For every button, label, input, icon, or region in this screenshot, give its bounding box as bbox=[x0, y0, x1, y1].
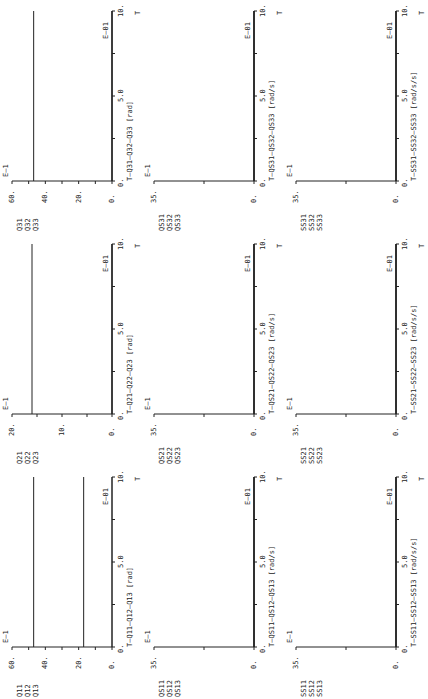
x-axis-label: T—Q11—Q12—Q13 [rad] bbox=[126, 567, 134, 647]
legend: Q21 Q22 Q23 bbox=[16, 451, 40, 464]
y-tick-label: 0. bbox=[108, 195, 116, 203]
x-tick-label: 10. bbox=[259, 237, 267, 250]
x-scale-label: E—01 bbox=[102, 22, 110, 39]
x-tick-label: 0. bbox=[401, 645, 409, 653]
x-tick-label: 10. bbox=[401, 470, 409, 483]
x-scale-label: E—01 bbox=[386, 488, 394, 505]
x-tick-label: 10. bbox=[401, 4, 409, 17]
y-tick-label: 20. bbox=[8, 423, 16, 436]
x-tick-label: 10. bbox=[401, 237, 409, 250]
x-scale-label: E—01 bbox=[102, 255, 110, 272]
y-tick-label: 35. bbox=[292, 423, 300, 436]
plot-panel-ss3: SS31 SS32 SS330.35.0.5.010.E—1E—01T—SS31… bbox=[284, 0, 426, 233]
y-tick-label: 20. bbox=[75, 190, 83, 203]
x-tick-label: 10. bbox=[117, 237, 125, 250]
y-tick-label: 0. bbox=[392, 661, 400, 669]
plot-panel-q3: Q31 Q32 Q330.20.40.60.0.5.010.E—1E—01T—Q… bbox=[0, 0, 142, 233]
x-tick-label: 0. bbox=[259, 412, 267, 420]
y-tick-label: 0. bbox=[108, 428, 116, 436]
y-scale-label: E—1 bbox=[144, 164, 152, 177]
x-tick-label: 5.0 bbox=[259, 322, 267, 335]
x-tick-label: 10. bbox=[259, 470, 267, 483]
x-axis-label: T—SS31—SS32—SS33 [rad/s/s] bbox=[410, 71, 418, 181]
x-axis-title: T bbox=[418, 11, 426, 15]
legend: Q11 Q12 Q13 bbox=[16, 684, 40, 697]
y-tick-label: 40. bbox=[41, 190, 49, 203]
x-scale-label: E—01 bbox=[386, 255, 394, 272]
x-tick-label: 5.0 bbox=[259, 555, 267, 568]
plot-panel-ss1: SS11 SS12 SS130.35.0.5.010.E—1E—01T—SS11… bbox=[284, 466, 426, 699]
plot-panel-qs3: QS31 QS32 QS330.35.0.5.010.E—1E—01T—QS31… bbox=[142, 0, 284, 233]
y-tick-label: 35. bbox=[150, 190, 158, 203]
y-tick-label: 60. bbox=[8, 190, 16, 203]
y-tick-label: 10. bbox=[58, 423, 66, 436]
x-axis-title: T bbox=[276, 477, 284, 481]
legend: SS21 SS22 SS23 bbox=[300, 447, 324, 464]
y-scale-label: E—1 bbox=[286, 164, 294, 177]
y-tick-label: 0. bbox=[392, 195, 400, 203]
y-tick-label: 0. bbox=[108, 661, 116, 669]
legend: Q31 Q32 Q33 bbox=[16, 218, 40, 231]
x-tick-label: 10. bbox=[117, 470, 125, 483]
x-axis-label: T—Q21—Q22—Q23 [rad] bbox=[126, 334, 134, 414]
x-tick-label: 0. bbox=[117, 179, 125, 187]
legend: QS31 QS32 QS33 bbox=[158, 214, 182, 231]
x-tick-label: 10. bbox=[117, 4, 125, 17]
y-tick-label: 0. bbox=[392, 428, 400, 436]
x-axis-title: T bbox=[418, 244, 426, 248]
x-tick-label: 5.0 bbox=[401, 322, 409, 335]
x-axis-title: T bbox=[276, 244, 284, 248]
y-tick-label: 35. bbox=[292, 190, 300, 203]
x-tick-label: 0. bbox=[117, 645, 125, 653]
y-tick-label: 0. bbox=[250, 661, 258, 669]
x-axis-title: T bbox=[276, 11, 284, 15]
y-tick-label: 40. bbox=[41, 656, 49, 669]
y-tick-label: 0. bbox=[250, 195, 258, 203]
x-tick-label: 0. bbox=[117, 412, 125, 420]
y-tick-label: 20. bbox=[75, 656, 83, 669]
x-tick-label: 5.0 bbox=[401, 89, 409, 102]
y-scale-label: E—1 bbox=[144, 397, 152, 410]
x-tick-label: 5.0 bbox=[401, 555, 409, 568]
x-axis-label: T—SS11—SS12—SS13 [rad/s/s] bbox=[410, 537, 418, 647]
x-scale-label: E—01 bbox=[244, 488, 252, 505]
plot-panel-q2: Q21 Q22 Q230.10.20.0.5.010.E—1E—01T—Q21—… bbox=[0, 233, 142, 466]
y-tick-label: 35. bbox=[150, 656, 158, 669]
y-scale-label: E—1 bbox=[2, 164, 10, 177]
plot-panel-q1: Q11 Q12 Q130.20.40.60.0.5.010.E—1E—01T—Q… bbox=[0, 466, 142, 699]
legend: SS31 SS32 SS33 bbox=[300, 214, 324, 231]
y-scale-label: E—1 bbox=[2, 397, 10, 410]
y-tick-label: 0. bbox=[250, 428, 258, 436]
x-tick-label: 0. bbox=[401, 179, 409, 187]
x-tick-label: 5.0 bbox=[259, 89, 267, 102]
y-scale-label: E—1 bbox=[2, 630, 10, 643]
y-tick-label: 60. bbox=[8, 656, 16, 669]
x-tick-label: 0. bbox=[259, 645, 267, 653]
y-scale-label: E—1 bbox=[286, 630, 294, 643]
x-tick-label: 10. bbox=[259, 4, 267, 17]
x-scale-label: E—01 bbox=[386, 22, 394, 39]
x-axis-label: T—SS21—SS22—SS23 [rad/s/s] bbox=[410, 304, 418, 414]
y-scale-label: E—1 bbox=[144, 630, 152, 643]
legend: QS11 QS12 QS13 bbox=[158, 680, 182, 697]
legend: SS11 SS12 SS13 bbox=[300, 680, 324, 697]
plot-panel-qs1: QS11 QS12 QS130.35.0.5.010.E—1E—01T—QS11… bbox=[142, 466, 284, 699]
x-tick-label: 5.0 bbox=[117, 555, 125, 568]
x-axis-title: T bbox=[418, 477, 426, 481]
x-axis-label: T—QS31—QS32—QS33 [rad/s] bbox=[268, 80, 276, 181]
plot-panel-qs2: QS21 QS22 QS230.35.0.5.010.E—1E—01T—QS21… bbox=[142, 233, 284, 466]
x-tick-label: 5.0 bbox=[117, 89, 125, 102]
x-tick-label: 0. bbox=[259, 179, 267, 187]
x-axis-title: T bbox=[134, 244, 142, 248]
y-tick-label: 35. bbox=[150, 423, 158, 436]
x-tick-label: 0. bbox=[401, 412, 409, 420]
plot-grid: Q11 Q12 Q130.20.40.60.0.5.010.E—1E—01T—Q… bbox=[0, 0, 428, 699]
legend: QS21 QS22 QS23 bbox=[158, 447, 182, 464]
x-axis-label: T—QS21—QS22—QS23 [rad/s] bbox=[268, 313, 276, 414]
x-axis-label: T—Q31—Q32—Q33 [rad] bbox=[126, 101, 134, 181]
x-axis-title: T bbox=[134, 477, 142, 481]
x-scale-label: E—01 bbox=[102, 488, 110, 505]
x-axis-label: T—QS11—QS12—QS13 [rad/s] bbox=[268, 546, 276, 647]
x-axis-title: T bbox=[134, 11, 142, 15]
plot-panel-ss2: SS21 SS22 SS230.35.0.5.010.E—1E—01T—SS21… bbox=[284, 233, 426, 466]
